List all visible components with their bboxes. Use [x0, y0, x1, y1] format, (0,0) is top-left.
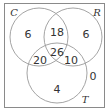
region-r-only: 6: [83, 28, 90, 41]
set-label-r: R: [92, 7, 101, 18]
region-t-only: 4: [54, 83, 61, 96]
region-none: 0: [90, 70, 97, 83]
venn-diagram: C R T 6 6 4 18 20 10 26 0: [0, 0, 108, 111]
region-c-only: 6: [25, 28, 32, 41]
region-c-r-t: 26: [50, 46, 64, 59]
region-c-t: 20: [33, 54, 47, 67]
region-r-t: 10: [64, 54, 78, 67]
set-label-c: C: [10, 7, 18, 18]
region-c-r: 18: [50, 26, 64, 39]
